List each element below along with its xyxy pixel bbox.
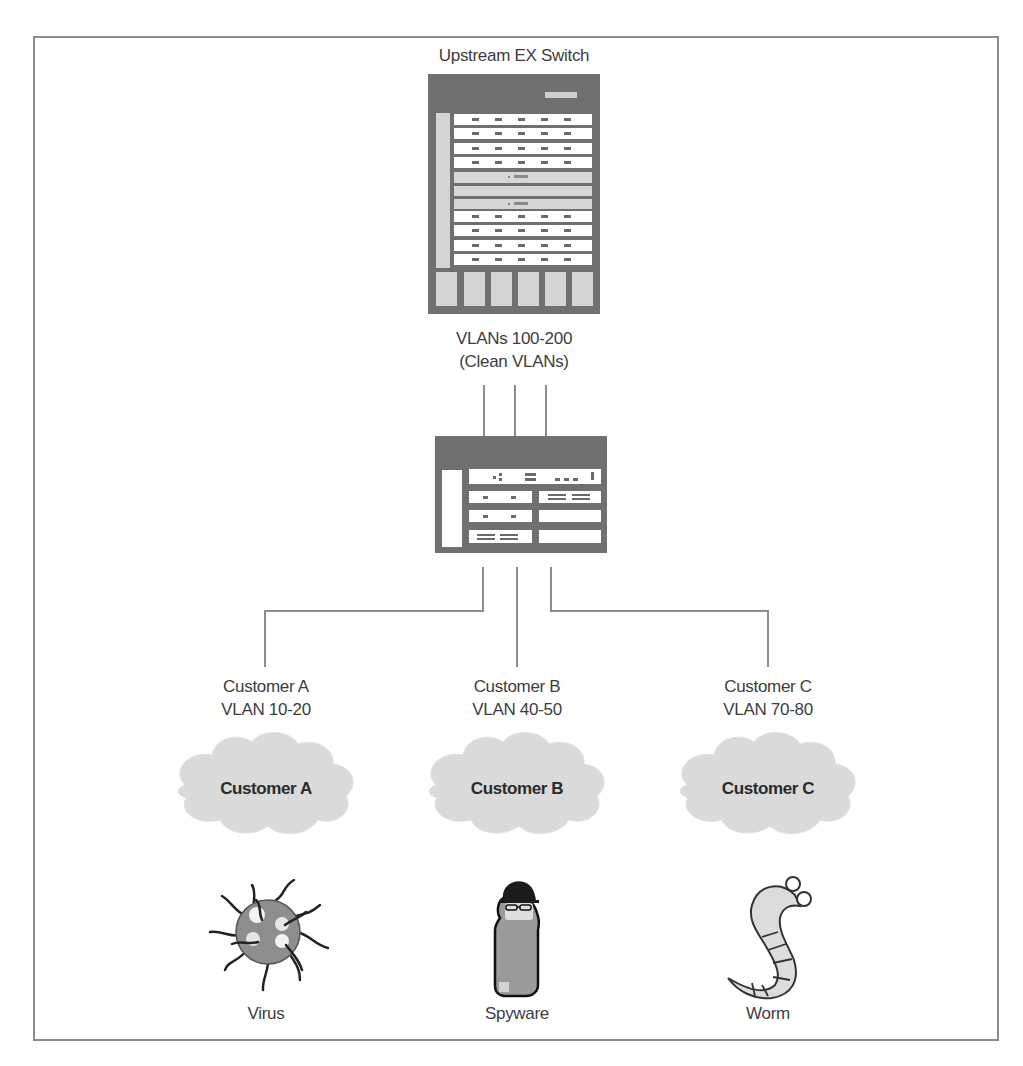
downlink-lines (265, 567, 768, 667)
spyware-icon (495, 881, 539, 996)
access-switch-icon (435, 436, 607, 553)
virus-icon (210, 880, 328, 990)
upstream-switch-icon (428, 74, 600, 314)
customer-b-cloud-label: Customer B (417, 779, 617, 799)
worm-icon (728, 877, 811, 998)
upstream-switch-label: Upstream EX Switch (414, 45, 614, 67)
customer-b-vlan: VLAN 40-50 (417, 699, 617, 721)
customer-a-name: Customer A (166, 676, 366, 698)
threat-spyware-label: Spyware (417, 1003, 617, 1025)
clean-vlans-label-line2: (Clean VLANs) (414, 351, 614, 373)
threat-worm-label: Worm (668, 1003, 868, 1025)
customer-a-cloud-label: Customer A (166, 779, 366, 799)
customer-c-cloud-label: Customer C (668, 779, 868, 799)
clean-vlans-label-line1: VLANs 100-200 (414, 328, 614, 350)
customer-c-vlan: VLAN 70-80 (668, 699, 868, 721)
network-diagram (0, 0, 1023, 1066)
customer-c-name: Customer C (668, 676, 868, 698)
uplink-lines (484, 385, 546, 436)
customer-b-name: Customer B (417, 676, 617, 698)
customer-a-vlan: VLAN 10-20 (166, 699, 366, 721)
threat-virus-label: Virus (166, 1003, 366, 1025)
